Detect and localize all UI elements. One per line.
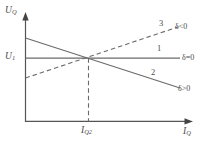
curve-3-number: 3 bbox=[159, 19, 163, 28]
curve-3-condition: δ<0 bbox=[175, 23, 187, 31]
x-tick-label-iq2: IQ2 bbox=[81, 126, 92, 136]
y-axis-label-sub: Q bbox=[12, 8, 17, 15]
x-axis-label-sub: Q bbox=[186, 129, 191, 136]
x-axis-arrowhead bbox=[185, 118, 194, 124]
curve-2-number: 2 bbox=[151, 68, 155, 77]
curve-1-condition: δ=0 bbox=[182, 54, 194, 62]
y-tick-label-u1: U1 bbox=[5, 52, 15, 62]
x-tick-label-sub: Q2 bbox=[84, 128, 92, 135]
curve-1-number: 1 bbox=[157, 44, 161, 53]
droop-characteristic-figure: UQ U1 IQ2 IQ 3 δ<0 1 δ=0 2 δ>0 bbox=[0, 0, 210, 148]
y-axis-arrowhead bbox=[22, 12, 28, 21]
y-tick-label-main: U bbox=[5, 51, 12, 61]
x-axis-label: IQ bbox=[183, 127, 191, 137]
curve-2-condition: δ>0 bbox=[178, 85, 190, 93]
y-tick-label-sub: 1 bbox=[12, 54, 15, 61]
y-axis-label-main: U bbox=[5, 5, 12, 15]
y-axis-label: UQ bbox=[5, 6, 17, 16]
